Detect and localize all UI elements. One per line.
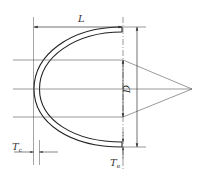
crown-thickness-sub: c	[19, 146, 22, 153]
crown-thickness-base: T	[12, 141, 19, 152]
cap-wall	[34, 27, 122, 147]
end-thickness-base: T	[110, 157, 117, 168]
pipe-cap-diagram	[0, 0, 205, 177]
cap-outer-curve	[34, 27, 122, 147]
diameter-label: D	[122, 85, 132, 93]
length-label-text: L	[78, 13, 85, 24]
length-label: L	[78, 14, 85, 24]
crown-thickness-label: Tc	[12, 142, 22, 153]
diameter-label-text: D	[121, 85, 132, 93]
end-thickness-label: Te	[110, 158, 120, 169]
end-thickness-sub: e	[117, 162, 121, 169]
